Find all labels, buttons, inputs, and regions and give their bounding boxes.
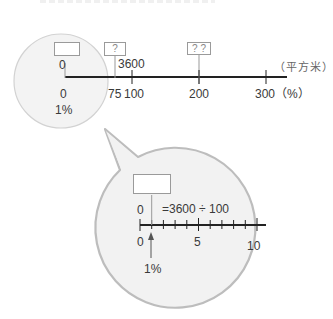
- diagram-graphics: [0, 0, 333, 319]
- bubble-tick-10: 10: [247, 240, 260, 252]
- bubble-answer-box[interactable]: [133, 174, 171, 194]
- top-value-zero: 0: [59, 59, 66, 71]
- bubble-equation: =3600 ÷ 100: [162, 203, 229, 215]
- bubble-top-zero: 0: [137, 204, 144, 216]
- unit-label: （平方米）: [274, 62, 333, 73]
- percent-label: 1%: [55, 104, 72, 116]
- top-value-3600: 3600: [118, 58, 145, 70]
- bubble-percent-label: 1%: [144, 263, 161, 275]
- tick-label-0: 0: [60, 88, 67, 100]
- tick-label-300-percent: 300（%）: [255, 88, 310, 100]
- bubble-tick-0: 0: [137, 236, 144, 248]
- tick-label-75: 75: [108, 88, 121, 100]
- tick-label-100: 100: [124, 88, 144, 100]
- answer-box-zero[interactable]: [54, 42, 80, 56]
- answer-box-75[interactable]: ?: [104, 42, 126, 56]
- bubble-tick-5: 5: [194, 236, 201, 248]
- tick-label-200: 200: [189, 88, 209, 100]
- answer-box-200[interactable]: ? ?: [187, 42, 211, 55]
